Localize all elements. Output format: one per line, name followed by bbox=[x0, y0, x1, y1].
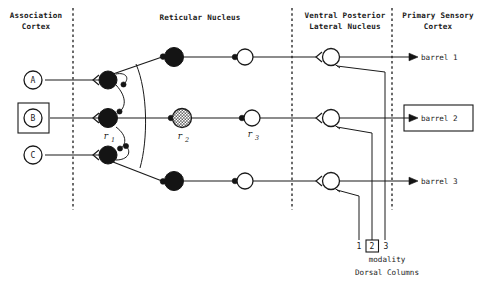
neuron-r1-top[interactable] bbox=[99, 71, 117, 89]
dc-fiber-2-number: 2 bbox=[370, 242, 375, 251]
vpl-neurons bbox=[323, 49, 340, 190]
bouton-bottom-up bbox=[123, 143, 128, 148]
bouton-top-to-mid bbox=[117, 109, 122, 114]
header-primary-sensory-cortex-line1: Primary Sensory bbox=[402, 11, 474, 20]
modality-caption: modality bbox=[369, 255, 406, 264]
barrel-1-label: barrel 1 bbox=[421, 53, 458, 62]
dorsal-column-legend: 1 2 3 modality Dorsal Columns bbox=[355, 240, 419, 277]
neuron-vpl-3[interactable] bbox=[323, 173, 340, 190]
projection-top bbox=[113, 57, 162, 74]
collateral-long-arc bbox=[136, 64, 146, 168]
barrel-2-label: barrel 2 bbox=[421, 114, 458, 123]
neuron-r3-bottom[interactable] bbox=[237, 173, 253, 189]
neuron-r2-subscript: 2 bbox=[184, 136, 189, 144]
dc-fiber-3-path bbox=[337, 66, 385, 240]
association-axons bbox=[45, 75, 99, 160]
neuron-r2-top[interactable] bbox=[165, 48, 184, 67]
neuron-r2-bottom[interactable] bbox=[165, 172, 184, 191]
neuron-r1-bottom[interactable] bbox=[99, 146, 117, 164]
projection-bottom bbox=[113, 162, 162, 181]
reticular-neurons: r 1 bbox=[99, 71, 118, 164]
dc-fiber-1-path bbox=[337, 190, 359, 240]
neuron-r1-label: r bbox=[104, 131, 109, 141]
neuron-r2-label: r bbox=[178, 131, 183, 141]
neuron-r3-subscript: 3 bbox=[255, 134, 259, 142]
synapse-chevron-vpl-1 bbox=[316, 52, 322, 62]
neuron-r3-top[interactable] bbox=[237, 49, 253, 65]
header-primary-sensory-cortex-line2: Cortex bbox=[424, 22, 453, 31]
circuit-diagram: Association Cortex Reticular Nucleus Ven… bbox=[0, 0, 478, 292]
vpl-to-cortex bbox=[340, 53, 418, 185]
dc-fiber-3-number: 3 bbox=[384, 242, 389, 251]
neuron-r1-subscript: 1 bbox=[111, 136, 115, 144]
synapse-chevron-vpl-2 bbox=[316, 113, 322, 123]
reticular-collaterals bbox=[116, 64, 146, 168]
header-association-cortex-line2: Cortex bbox=[22, 22, 51, 31]
arrowhead-barrel-1 bbox=[409, 53, 418, 61]
collateral-top-to-mid bbox=[116, 85, 124, 112]
column-headers: Association Cortex Reticular Nucleus Ven… bbox=[10, 11, 474, 31]
source-c-label: C bbox=[31, 151, 36, 160]
dc-fiber-1-number: 1 bbox=[357, 242, 362, 251]
relay-to-thalamic bbox=[184, 54, 245, 184]
neuron-r2-middle[interactable] bbox=[173, 109, 192, 128]
header-reticular-nucleus: Reticular Nucleus bbox=[159, 13, 240, 22]
neuron-r3-label: r bbox=[248, 129, 253, 139]
dorsal-columns-caption: Dorsal Columns bbox=[355, 268, 419, 277]
dc-fiber-2-path bbox=[337, 127, 372, 240]
thalamic-to-vpl bbox=[253, 52, 322, 186]
neuron-r1-middle[interactable] bbox=[99, 109, 118, 128]
header-association-cortex-line1: Association bbox=[10, 11, 63, 20]
barrel-3-label: barrel 3 bbox=[421, 177, 458, 186]
arrowhead-barrel-3 bbox=[409, 177, 418, 185]
bouton-mid-to-bottom bbox=[117, 146, 122, 151]
bouton-mid-up bbox=[121, 82, 126, 87]
arrowhead-barrel-2 bbox=[409, 114, 418, 122]
source-a-label: A bbox=[31, 76, 36, 85]
header-vpl-line2: Lateral Nucleus bbox=[309, 22, 381, 31]
neuron-vpl-2[interactable] bbox=[323, 110, 340, 127]
neuron-r3-middle[interactable] bbox=[244, 110, 260, 126]
header-vpl-line1: Ventral Posterior bbox=[304, 11, 385, 20]
neuron-vpl-1[interactable] bbox=[323, 49, 340, 66]
dorsal-column-fibers bbox=[333, 63, 385, 240]
synapse-chevron-vpl-3 bbox=[316, 176, 322, 186]
source-nodes: A B C bbox=[18, 71, 49, 164]
source-b-label: B bbox=[31, 114, 36, 123]
